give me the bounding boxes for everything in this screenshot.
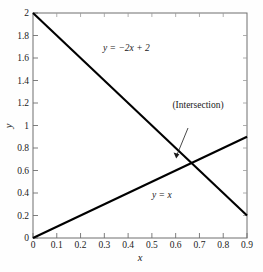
x-tick-label-7: 0.7 [194,240,206,250]
y-tick-label-8: 1.6 [0,53,29,63]
y-tick-label-9: 1.8 [0,31,29,41]
y-tick-label-3: 0.6 [0,166,29,176]
intersection-coordinates: ( 2 3 , 2 3 ) [0,0,132,17]
x-tick-label-8: 0.8 [217,240,229,250]
series-label-identity: y = x [152,190,172,200]
y-axis-title: y [3,124,14,129]
y-tick-label-1: 0.2 [0,211,29,221]
y-tick-label-2: 0.4 [0,188,29,198]
y-tick-label-6: 1.2 [0,98,29,108]
chart-figure: 0 0.1 0.2 0.3 0.4 0.5 0.6 0.7 0.8 0.9 0 … [0,0,263,272]
intersection-caption: (Intersection) [172,100,223,110]
x-tick-label-0: 0 [31,240,36,250]
y-tick-label-0: 0 [0,233,29,243]
y-tick-label-7: 1.4 [0,76,29,86]
y-tick-label-4: 0.8 [0,143,29,153]
x-tick-label-5: 0.5 [146,240,158,250]
x-tick-label-6: 0.6 [170,240,182,250]
x-tick-label-9: 0.9 [241,240,253,250]
x-tick-label-2: 0.2 [75,240,87,250]
series-label-decreasing: y = −2x + 2 [103,43,150,53]
x-tick-label-1: 0.1 [51,240,63,250]
x-tick-label-4: 0.4 [122,240,134,250]
x-axis-title: x [138,252,143,263]
x-tick-label-3: 0.3 [98,240,110,250]
plot-canvas [0,0,263,272]
